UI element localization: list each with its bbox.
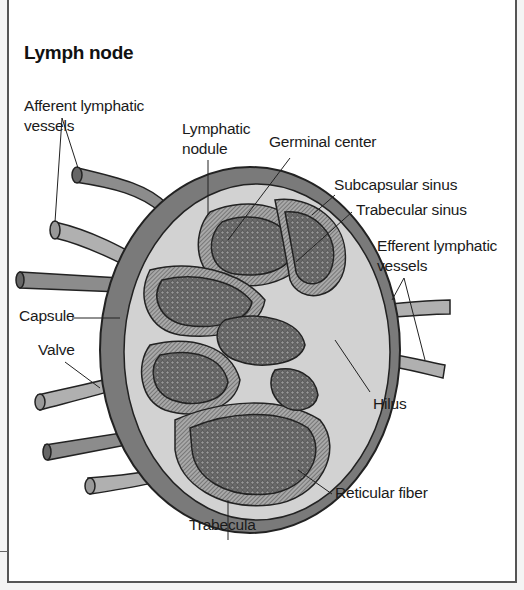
label-efferent-lymphatic-vessels-line1: Efferent lymphatic [377,236,497,256]
label-lymphatic-nodule-line2: nodule [182,139,227,159]
label-capsule: Capsule [19,306,74,326]
label-afferent-lymphatic-vessels-line1: Afferent lymphatic [24,96,144,116]
label-germinal-center: Germinal center [269,132,376,152]
lymph-node-illustration [0,0,524,590]
label-hilus: Hilus [373,394,406,414]
label-afferent-lymphatic-vessels-line2: vessels [24,116,74,136]
label-efferent-lymphatic-vessels-line2: vessels [377,256,427,276]
diagram-title: Lymph node [24,42,133,64]
label-reticular-fiber: Reticular fiber [335,483,428,503]
label-subcapsular-sinus: Subcapsular sinus [334,175,457,195]
label-valve: Valve [38,340,75,360]
label-trabecula: Trabecula [189,515,256,535]
label-trabecular-sinus: Trabecular sinus [356,200,467,220]
label-lymphatic-nodule-line1: Lymphatic [182,119,250,139]
